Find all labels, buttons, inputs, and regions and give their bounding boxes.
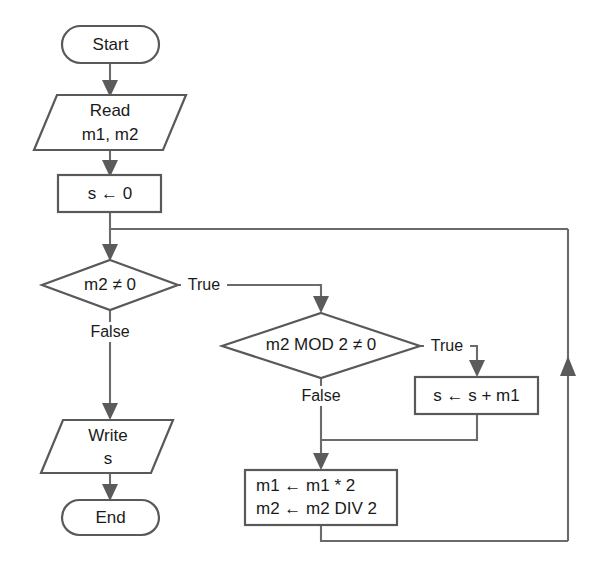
edge-label-odd-true: True <box>424 336 470 356</box>
edge-label-loop-true: True <box>181 275 227 295</box>
edge-label-loop-false-text: False <box>90 323 129 340</box>
node-odd-condition[interactable]: m2 MOD 2 ≠ 0 <box>222 313 420 378</box>
edge-loop-back-riser <box>560 229 576 541</box>
node-loop-condition[interactable]: m2 ≠ 0 <box>42 260 178 310</box>
node-end[interactable]: End <box>62 500 159 535</box>
node-read[interactable]: Read m1, m2 <box>34 95 186 150</box>
node-start[interactable]: Start <box>62 26 159 63</box>
flowchart-canvas: Start Read m1, m2 s ← 0 m2 ≠ 0 m2 MOD 2 … <box>0 0 597 567</box>
node-init-sum-label: s ← 0 <box>88 184 132 203</box>
edge-label-loop-true-text: True <box>188 276 220 293</box>
node-halve-double-line1: m1 ← m1 * 2 <box>256 476 355 495</box>
node-read-line1: Read <box>90 101 131 120</box>
edge-start-to-read <box>102 62 118 97</box>
edge-label-loop-false: False <box>84 322 136 342</box>
node-start-label: Start <box>93 35 129 54</box>
node-end-label: End <box>95 508 125 527</box>
node-accumulate-label: s ← s + m1 <box>433 386 519 405</box>
edge-read-to-init <box>102 150 118 177</box>
node-write[interactable]: Write s <box>41 420 173 473</box>
edge-init-to-loop-condition <box>102 212 118 261</box>
node-halve-double[interactable]: m1 ← m1 * 2 m2 ← m2 DIV 2 <box>245 470 397 525</box>
node-write-line2: s <box>104 449 113 468</box>
node-accumulate[interactable]: s ← s + m1 <box>415 377 538 414</box>
node-read-line2: m1, m2 <box>82 125 139 144</box>
edge-label-odd-true-text: True <box>431 337 463 354</box>
edge-accumulate-to-merge <box>321 414 477 440</box>
edge-label-odd-false: False <box>295 386 347 406</box>
node-write-line1: Write <box>88 426 127 445</box>
edge-write-to-end <box>102 473 118 501</box>
edge-halve-to-loop-back <box>321 525 568 541</box>
node-init-sum[interactable]: s ← 0 <box>58 175 161 212</box>
edge-label-odd-false-text: False <box>301 387 340 404</box>
node-halve-double-line2: m2 ← m2 DIV 2 <box>256 499 377 518</box>
node-loop-condition-label: m2 ≠ 0 <box>84 275 136 294</box>
node-odd-condition-label: m2 MOD 2 ≠ 0 <box>266 335 376 354</box>
flowchart-diagram: Start Read m1, m2 s ← 0 m2 ≠ 0 m2 MOD 2 … <box>0 0 597 567</box>
